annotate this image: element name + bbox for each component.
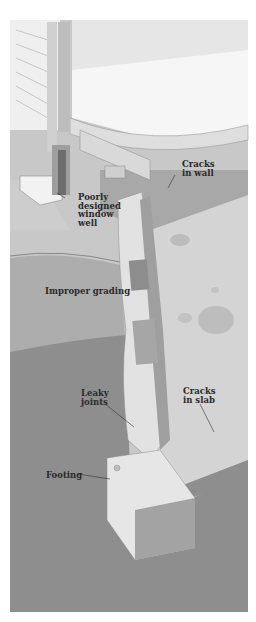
label-poorly-designed-window-well: Poorly designed window well bbox=[78, 193, 121, 227]
label-cracks-in-slab: Cracks in slab bbox=[183, 387, 216, 404]
label-cracks-in-wall: Cracks in wall bbox=[182, 160, 215, 177]
foundation-diagram: Cracks in wall Poorly designed window we… bbox=[0, 0, 256, 622]
label-leaky-joints: Leaky joints bbox=[81, 389, 109, 406]
label-footing: Footing bbox=[46, 471, 82, 480]
label-improper-grading: Improper grading bbox=[45, 287, 130, 296]
foundation-illustration bbox=[0, 0, 256, 622]
